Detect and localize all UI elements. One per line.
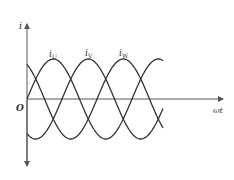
label-iW: iW xyxy=(119,48,129,59)
origin-label: O xyxy=(16,103,24,113)
three-phase-current-diagram: i O ωt iU iV iW xyxy=(0,0,234,180)
x-axis-label: ωt xyxy=(213,106,224,115)
y-axis-label: i xyxy=(19,20,22,31)
label-iU: iU xyxy=(49,49,57,60)
label-iV: iV xyxy=(85,48,93,59)
